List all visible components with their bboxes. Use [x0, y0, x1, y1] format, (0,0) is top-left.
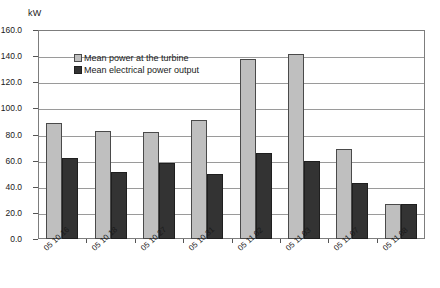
- gridline: [39, 83, 424, 84]
- x-tick-mark: [280, 239, 281, 243]
- y-tick-mark: [33, 161, 38, 162]
- y-tick-label: 0.0: [0, 234, 22, 244]
- legend-label: Mean electrical power output: [84, 65, 199, 75]
- x-tick-mark: [232, 239, 233, 243]
- y-tick-mark: [33, 82, 38, 83]
- legend-swatch-icon: [74, 66, 82, 74]
- y-tick-label: 140.0: [0, 51, 22, 61]
- y-tick-mark: [33, 135, 38, 136]
- chart-legend: Mean power at the turbineMean electrical…: [74, 53, 199, 75]
- y-tick-label: 160.0: [0, 25, 22, 35]
- gridline: [39, 109, 424, 110]
- x-tick-mark: [86, 239, 87, 243]
- gridline: [39, 214, 424, 215]
- bar-chart: kW 0.020.040.060.080.0100.0120.0140.0160…: [0, 0, 440, 288]
- x-tick-mark: [135, 239, 136, 243]
- y-tick-mark: [33, 56, 38, 57]
- y-tick-mark: [33, 213, 38, 214]
- gridline: [39, 136, 424, 137]
- y-tick-label: 80.0: [0, 130, 22, 140]
- x-tick-mark: [328, 239, 329, 243]
- x-tick-mark: [377, 239, 378, 243]
- y-tick-mark: [33, 108, 38, 109]
- x-tick-mark: [183, 239, 184, 243]
- y-tick-mark: [33, 30, 38, 31]
- legend-label: Mean power at the turbine: [84, 53, 189, 63]
- legend-entry: Mean power at the turbine: [74, 53, 199, 63]
- gridline: [39, 188, 424, 189]
- y-tick-mark: [33, 239, 38, 240]
- y-tick-label: 20.0: [0, 208, 22, 218]
- y-tick-mark: [33, 187, 38, 188]
- gridline: [39, 162, 424, 163]
- y-tick-label: 120.0: [0, 77, 22, 87]
- y-axis-title: kW: [28, 8, 41, 18]
- y-tick-label: 100.0: [0, 103, 22, 113]
- y-tick-label: 60.0: [0, 156, 22, 166]
- legend-swatch-icon: [74, 54, 82, 62]
- y-tick-label: 40.0: [0, 182, 22, 192]
- legend-entry: Mean electrical power output: [74, 65, 199, 75]
